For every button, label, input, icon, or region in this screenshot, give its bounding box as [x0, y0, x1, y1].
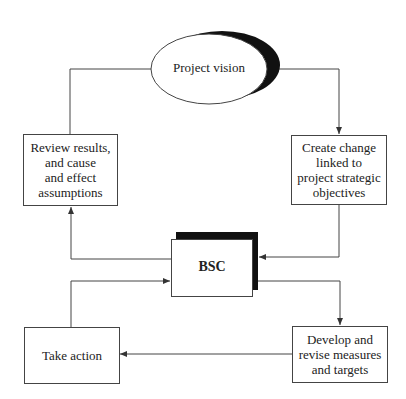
develop-line-3: and targets	[299, 362, 382, 377]
develop-box: Develop and revise measures and targets	[292, 326, 388, 383]
review-line-1: Review results,	[30, 140, 110, 155]
edge-bsc-to-review	[71, 207, 171, 259]
edge-create-to-bsc	[259, 204, 339, 257]
create-box: Create change linked to project strategi…	[291, 135, 387, 205]
create-line-1: Create change	[297, 140, 380, 155]
take-action-box: Take action	[24, 327, 120, 384]
vision-label: Project vision	[151, 60, 267, 76]
review-line-3: and effect	[30, 170, 110, 185]
take-action-label: Take action	[42, 348, 102, 363]
review-box: Review results, and cause and effect ass…	[23, 134, 118, 206]
edge-takeaction-to-bsc	[71, 281, 170, 327]
edge-review-to-vision	[70, 69, 152, 134]
bsc-label: BSC	[171, 259, 253, 275]
develop-line-2: revise measures	[299, 347, 382, 362]
create-line-3: project strategic	[297, 170, 380, 185]
edge-bsc-to-develop	[257, 281, 340, 325]
review-line-2: and cause	[30, 155, 110, 170]
create-line-4: objectives	[297, 185, 380, 200]
edge-vision-to-create	[264, 69, 339, 134]
review-line-4: assumptions	[30, 185, 110, 200]
create-line-2: linked to	[297, 155, 380, 170]
develop-line-1: Develop and	[299, 332, 382, 347]
